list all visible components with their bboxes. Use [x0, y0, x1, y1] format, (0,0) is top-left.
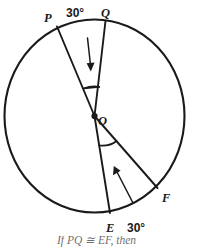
circle-diagram-svg: P Q O E F 30° 30° [0, 0, 197, 248]
radius-line-oq [95, 21, 106, 116]
arrow-head-bottom [113, 166, 121, 175]
angle-arc-bottom [99, 141, 117, 146]
arrow-shaft-top [88, 38, 91, 65]
label-point-e: E [105, 221, 114, 235]
geometry-figure: P Q O E F 30° 30° If PQ ≅ EF, then [0, 0, 197, 248]
label-point-f: F [161, 191, 171, 205]
center-point-dot [91, 113, 97, 119]
label-angle-bottom: 30° [127, 221, 145, 235]
figure-caption-clip: If PQ ≅ EF, then [0, 236, 197, 248]
radius-line-op [57, 27, 95, 117]
figure-caption: If PQ ≅ EF, then [57, 236, 136, 247]
arrow-head-top [87, 62, 95, 71]
label-angle-top: 30° [66, 6, 84, 20]
label-point-o: O [98, 114, 107, 128]
label-point-p: P [44, 11, 52, 25]
label-point-q: Q [101, 6, 110, 20]
arrow-shaft-bottom [117, 172, 133, 203]
